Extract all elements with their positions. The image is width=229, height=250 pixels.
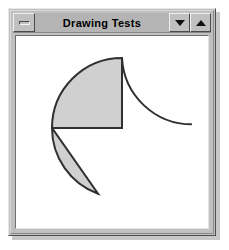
minimize-bar-icon bbox=[19, 21, 30, 25]
drawing-canvas[interactable] bbox=[15, 35, 209, 229]
drawing-surface bbox=[16, 36, 209, 229]
arc-stroke-shape bbox=[122, 58, 192, 124]
window-title: Drawing Tests bbox=[35, 13, 169, 32]
system-menu-button[interactable] bbox=[13, 13, 35, 32]
application-window: Drawing Tests bbox=[8, 8, 216, 236]
minimize-button[interactable] bbox=[169, 13, 190, 32]
chord-segment-shape bbox=[52, 128, 98, 194]
title-bar[interactable]: Drawing Tests bbox=[13, 13, 211, 33]
pie-slice-shape bbox=[52, 58, 122, 128]
screen-background: Drawing Tests bbox=[0, 0, 229, 250]
window-inner-frame: Drawing Tests bbox=[10, 10, 214, 234]
maximize-button[interactable] bbox=[190, 13, 211, 32]
triangle-up-icon bbox=[196, 20, 206, 26]
triangle-down-icon bbox=[175, 20, 185, 26]
